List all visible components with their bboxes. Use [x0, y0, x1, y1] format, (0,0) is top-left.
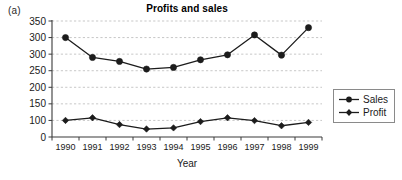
data-point-profit: [305, 119, 311, 125]
data-series-group: [62, 25, 311, 133]
data-point-sales: [62, 34, 68, 40]
x-tick-label: 1995: [190, 142, 210, 152]
x-tick-label: 1998: [271, 142, 291, 152]
data-point-profit: [143, 126, 149, 132]
x-tick-label: 1996: [217, 142, 237, 152]
x-tick-label: 1997: [244, 142, 264, 152]
data-point-profit: [224, 115, 230, 121]
y-tick-label: 350: [29, 16, 46, 27]
y-tick-label: 150: [29, 98, 46, 109]
data-point-sales: [170, 64, 176, 70]
data-point-sales: [89, 54, 95, 60]
data-point-sales: [116, 58, 122, 64]
gridlines-group: [52, 21, 322, 120]
data-point-sales: [278, 52, 284, 58]
legend-label-profit: Profit: [360, 107, 386, 118]
data-point-sales: [224, 52, 230, 58]
data-point-sales: [197, 57, 203, 63]
y-tick-labels-group: 3503003002502001501000: [29, 16, 46, 143]
data-point-sales: [143, 66, 149, 72]
diamond-marker-icon: [338, 107, 360, 118]
y-tick-label: 100: [29, 115, 46, 126]
series-line-sales: [66, 28, 309, 69]
y-tick-label: 300: [29, 32, 46, 43]
x-tick-label: 1999: [298, 142, 318, 152]
x-tick-label: 1991: [82, 142, 102, 152]
data-point-profit: [197, 118, 203, 124]
x-axis-title: Year: [177, 158, 198, 169]
data-point-profit: [62, 117, 68, 123]
circle-marker-icon: [338, 94, 360, 105]
data-point-profit: [116, 121, 122, 127]
y-tick-label: 0: [40, 132, 46, 143]
x-tick-label: 1992: [109, 142, 129, 152]
y-tick-label: 300: [29, 49, 46, 60]
y-tick-label: 250: [29, 65, 46, 76]
data-point-profit: [251, 117, 257, 123]
x-tick-label: 1990: [55, 142, 75, 152]
data-point-profit: [278, 123, 284, 129]
legend-label-sales: Sales: [360, 94, 388, 105]
data-point-sales: [305, 25, 311, 31]
x-tick-labels-group: 1990199119921993199419951996199719981999: [55, 142, 318, 152]
data-point-profit: [89, 115, 95, 121]
x-tick-label: 1994: [163, 142, 183, 152]
x-tick-label: 1993: [136, 142, 156, 152]
chart-legend: Sales Profit: [333, 89, 395, 123]
chart-figure: (a) Profits and sales 350300300250200150…: [0, 0, 402, 180]
legend-item-profit[interactable]: Profit: [338, 106, 388, 119]
data-point-sales: [251, 32, 257, 38]
legend-item-sales[interactable]: Sales: [338, 93, 388, 106]
data-point-profit: [170, 125, 176, 131]
series-line-profit: [66, 118, 309, 129]
y-tick-label: 200: [29, 82, 46, 93]
